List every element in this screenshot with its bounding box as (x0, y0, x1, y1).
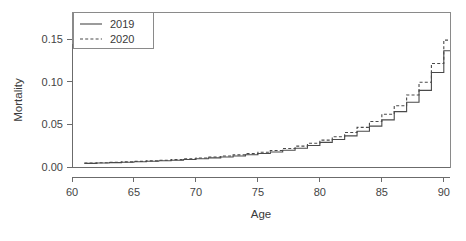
legend-label-2019: 2019 (110, 18, 134, 30)
chart-background (0, 0, 466, 241)
y-tick-label: 0.05 (42, 118, 63, 130)
chart-canvas: 0.000.050.100.15 60657075808590 Age Mort… (0, 0, 466, 241)
x-tick-label: 90 (438, 186, 450, 198)
y-axis-title: Mortality (12, 78, 24, 122)
legend-label-2020: 2020 (110, 33, 134, 45)
mortality-by-age-chart: 0.000.050.100.15 60657075808590 Age Mort… (0, 0, 466, 241)
legend[interactable]: 2019 2020 (73, 12, 153, 48)
y-tick-label: 0.00 (42, 161, 63, 173)
x-tick-label: 60 (66, 186, 78, 198)
x-tick-label: 85 (376, 186, 388, 198)
y-tick-label: 0.10 (42, 76, 63, 88)
x-tick-label: 75 (252, 186, 264, 198)
x-tick-label: 65 (128, 186, 140, 198)
x-tick-label: 70 (190, 186, 202, 198)
x-tick-label: 80 (314, 186, 326, 198)
y-tick-label: 0.15 (42, 33, 63, 45)
x-axis-title: Age (251, 208, 271, 220)
